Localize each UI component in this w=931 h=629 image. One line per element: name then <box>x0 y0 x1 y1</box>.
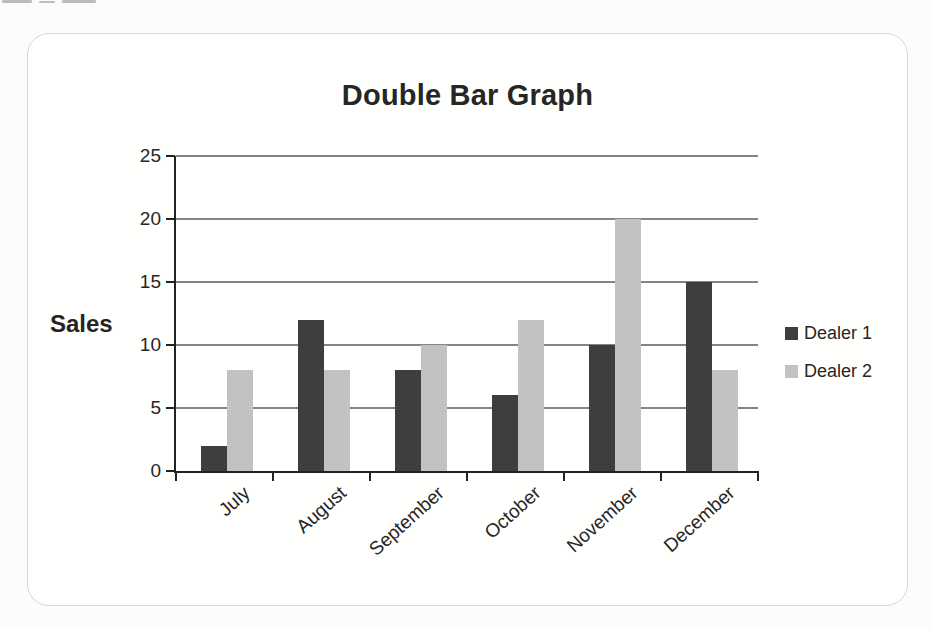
bar-dealer-1 <box>492 395 518 471</box>
y-tick-label: 10 <box>116 334 161 356</box>
bar-dealer-2 <box>421 345 447 471</box>
x-tick-mark <box>466 471 468 481</box>
chart-card: Double Bar Graph Sales 0510152025JulyAug… <box>27 33 908 606</box>
x-tick-mark <box>563 471 565 481</box>
y-tick-label: 15 <box>116 271 161 293</box>
y-tick-mark <box>166 218 175 220</box>
y-tick-label: 5 <box>116 397 161 419</box>
legend-label: Dealer 1 <box>804 323 872 344</box>
x-tick-label: September <box>364 482 448 561</box>
y-tick-mark <box>166 344 175 346</box>
y-tick-label: 20 <box>116 208 161 230</box>
x-tick-label: July <box>214 482 254 521</box>
legend-item: Dealer 2 <box>785 361 872 382</box>
bar-dealer-1 <box>298 320 324 471</box>
x-tick-mark <box>272 471 274 481</box>
x-tick-mark <box>757 471 759 481</box>
x-tick-label: August <box>293 482 352 538</box>
y-tick-mark <box>166 155 175 157</box>
y-tick-mark <box>166 281 175 283</box>
bar-dealer-2 <box>518 320 544 471</box>
bar-dealer-1 <box>201 446 227 471</box>
gridline <box>176 155 758 157</box>
bar-dealer-2 <box>712 370 738 471</box>
bar-dealer-1 <box>589 345 615 471</box>
bar-dealer-2 <box>615 219 641 471</box>
legend-swatch <box>785 365 798 378</box>
plot-area: 0510152025JulyAugustSeptemberOctoberNove… <box>174 156 758 473</box>
x-tick-label: December <box>659 482 739 557</box>
x-tick-mark <box>369 471 371 481</box>
bar-dealer-2 <box>227 370 253 471</box>
x-tick-label: October <box>480 482 545 544</box>
page-edge-artifact <box>2 0 103 6</box>
bar-dealer-1 <box>686 282 712 471</box>
legend: Dealer 1Dealer 2 <box>785 323 872 399</box>
bar-dealer-2 <box>324 370 350 471</box>
legend-swatch <box>785 327 798 340</box>
y-tick-mark <box>166 470 175 472</box>
legend-item: Dealer 1 <box>785 323 872 344</box>
bar-dealer-1 <box>395 370 421 471</box>
legend-label: Dealer 2 <box>804 361 872 382</box>
gridline <box>176 218 758 220</box>
chart-title: Double Bar Graph <box>28 79 907 112</box>
y-tick-label: 25 <box>116 145 161 167</box>
y-tick-label: 0 <box>116 460 161 482</box>
y-tick-mark <box>166 407 175 409</box>
x-tick-mark <box>175 471 177 481</box>
gridline <box>176 281 758 283</box>
x-tick-label: November <box>562 482 642 557</box>
x-tick-mark <box>660 471 662 481</box>
gridline <box>176 407 758 409</box>
gridline <box>176 344 758 346</box>
